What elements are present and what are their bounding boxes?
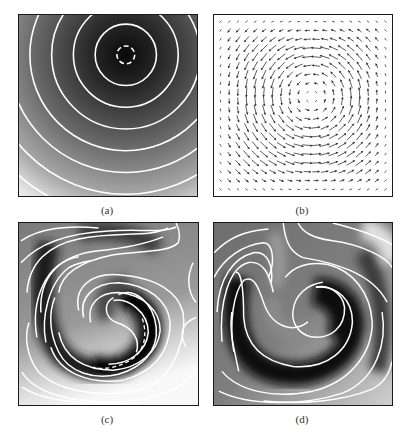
panel-d-contour-plot [213, 222, 393, 406]
contour-plot-c [19, 223, 198, 405]
velocity-arrow [297, 21, 300, 22]
panel-label-c: (c) [87, 413, 127, 425]
panel-label-a: (a) [87, 204, 127, 216]
panel-a-contour-plot [18, 14, 198, 197]
velocity-arrow [385, 82, 386, 85]
panel-label-b: (b) [282, 204, 322, 216]
panel-label-d: (d) [282, 413, 322, 425]
velocity-arrow [385, 109, 386, 112]
panel-c-contour-plot [18, 222, 199, 406]
contour-plot-d [214, 223, 392, 405]
panel-b-velocity-field [213, 14, 393, 197]
contour-plot-a [19, 15, 197, 196]
quiver-plot-b [214, 15, 392, 196]
